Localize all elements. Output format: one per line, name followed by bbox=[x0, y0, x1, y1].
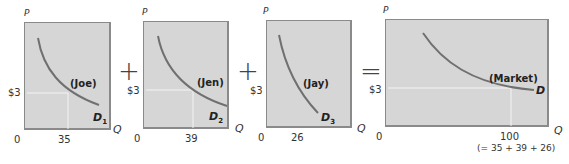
curve-letter: D bbox=[536, 84, 545, 97]
sum-annotation: (= 35 + 39 + 26) bbox=[477, 143, 555, 153]
demand-curve-jay bbox=[267, 21, 352, 127]
origin-label-jen: 0 bbox=[134, 133, 140, 144]
p-axis-label-jen: P bbox=[142, 7, 147, 17]
curve-label-d1: D1 bbox=[93, 111, 107, 126]
demand-panel-market: (Market) D bbox=[385, 19, 549, 127]
price-label-jay: $3 bbox=[250, 85, 263, 96]
consumer-name-jay: (Jay) bbox=[303, 78, 329, 89]
demand-panel-jay: (Jay) D3 bbox=[266, 20, 352, 128]
curve-label-d2: D2 bbox=[209, 110, 223, 125]
origin-label-market: 0 bbox=[376, 131, 382, 142]
curve-label-d3: D3 bbox=[321, 111, 335, 126]
demand-panel-jen: (Jen) D2 bbox=[143, 21, 229, 129]
q-axis-label-market: Q bbox=[554, 124, 563, 137]
consumer-name-joe: (Joe) bbox=[70, 78, 97, 89]
origin-label-joe: 0 bbox=[14, 134, 20, 145]
quantity-label-market: 100 bbox=[500, 131, 519, 142]
p-axis-label-joe: P bbox=[24, 8, 29, 18]
origin-label-jay: 0 bbox=[258, 132, 264, 143]
curve-subscript: 3 bbox=[330, 118, 335, 126]
price-label-joe: $3 bbox=[8, 87, 21, 98]
curve-letter: D bbox=[93, 111, 102, 124]
q-axis-label-jay: Q bbox=[357, 122, 366, 135]
curve-label-d: D bbox=[536, 84, 545, 97]
market-name: (Market) bbox=[489, 73, 538, 84]
price-label-jen: $3 bbox=[127, 85, 140, 96]
quantity-label-jay: 26 bbox=[291, 132, 304, 143]
quantity-label-joe: 35 bbox=[58, 134, 71, 145]
curve-letter: D bbox=[209, 110, 218, 123]
plus-operator-2: + bbox=[237, 56, 259, 86]
q-axis-label-joe: Q bbox=[113, 123, 122, 136]
p-axis-label-market: P bbox=[383, 5, 388, 15]
q-axis-label-jen: Q bbox=[235, 122, 244, 135]
consumer-name-jen: (Jen) bbox=[197, 77, 224, 88]
curve-letter: D bbox=[321, 111, 330, 124]
quantity-label-jen: 39 bbox=[185, 133, 198, 144]
curve-subscript: 1 bbox=[102, 118, 107, 126]
equals-operator: = bbox=[360, 56, 382, 86]
curve-subscript: 2 bbox=[218, 117, 223, 125]
plus-operator-1: + bbox=[118, 56, 140, 86]
demand-panel-joe: (Joe) D1 bbox=[24, 22, 111, 130]
p-axis-label-jay: P bbox=[263, 6, 268, 16]
price-label-market: $3 bbox=[369, 84, 382, 95]
